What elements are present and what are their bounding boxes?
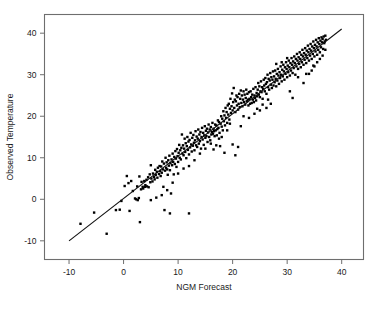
y-axis-title: Observed Temperature	[5, 93, 15, 180]
data-point	[213, 135, 215, 137]
data-point	[224, 124, 226, 126]
data-point	[182, 154, 184, 156]
data-point	[234, 154, 236, 156]
data-point	[257, 88, 259, 90]
x-tick-label: -10	[63, 267, 76, 277]
data-point	[174, 150, 176, 152]
data-point	[273, 75, 275, 77]
data-point	[202, 132, 204, 134]
data-point	[219, 145, 221, 147]
data-point	[206, 127, 208, 129]
data-point	[302, 64, 304, 66]
data-point	[224, 107, 226, 109]
data-point	[294, 74, 296, 76]
data-point	[266, 81, 268, 83]
data-point	[188, 139, 190, 141]
data-point	[259, 96, 261, 98]
data-point	[105, 233, 107, 235]
data-point	[297, 76, 299, 78]
x-axis-title: NGM Forecast	[176, 282, 232, 292]
data-point	[257, 82, 259, 84]
data-point	[163, 162, 165, 164]
data-point	[209, 139, 211, 141]
data-point	[242, 115, 244, 117]
data-point	[277, 68, 279, 70]
data-point	[305, 73, 307, 75]
data-point	[322, 48, 324, 50]
data-point	[251, 102, 253, 104]
data-point	[240, 125, 242, 127]
data-point	[177, 161, 179, 163]
data-point	[119, 208, 121, 210]
data-point	[240, 102, 242, 104]
data-point	[259, 109, 261, 111]
data-point	[185, 142, 187, 144]
data-point	[321, 38, 323, 40]
data-point	[229, 108, 231, 110]
data-point	[140, 188, 142, 190]
data-point	[179, 149, 181, 151]
data-point	[180, 158, 182, 160]
data-point	[231, 109, 233, 111]
data-point	[231, 92, 233, 94]
data-point	[307, 44, 309, 46]
data-point	[286, 57, 288, 59]
data-point	[242, 98, 244, 100]
data-point	[216, 134, 218, 136]
data-point	[180, 147, 182, 149]
data-point	[277, 74, 279, 76]
data-point	[204, 147, 206, 149]
data-point	[182, 144, 184, 146]
data-point	[264, 90, 266, 92]
data-point	[208, 136, 210, 138]
data-point	[140, 181, 142, 183]
data-point	[321, 54, 323, 56]
data-point	[269, 79, 271, 81]
data-point	[285, 61, 287, 63]
data-point	[288, 66, 290, 68]
data-point	[240, 89, 242, 91]
y-tick-label: 20	[27, 111, 37, 121]
data-point	[229, 123, 231, 125]
data-point	[267, 98, 269, 100]
data-point	[233, 107, 235, 109]
data-point	[215, 144, 217, 146]
data-point	[261, 103, 263, 105]
data-point	[191, 150, 193, 152]
data-point	[308, 73, 310, 75]
data-point	[158, 173, 160, 175]
data-point	[139, 221, 141, 223]
data-point	[212, 148, 214, 150]
data-point	[201, 138, 203, 140]
data-point	[161, 194, 163, 196]
data-point	[270, 76, 272, 78]
data-point	[301, 61, 303, 63]
data-point	[283, 70, 285, 72]
data-point	[226, 122, 228, 124]
y-tick-label: 0	[32, 194, 37, 204]
data-point	[193, 159, 195, 161]
data-point	[281, 61, 283, 63]
data-point	[271, 87, 273, 89]
data-point	[272, 84, 274, 86]
data-point	[171, 152, 173, 154]
data-point	[211, 122, 213, 124]
data-point	[316, 54, 318, 56]
data-point	[126, 175, 128, 177]
data-point	[212, 132, 214, 134]
data-point	[168, 164, 170, 166]
y-tick-label: 10	[27, 153, 37, 163]
data-point	[166, 189, 168, 191]
data-point	[228, 118, 230, 120]
data-point	[206, 141, 208, 143]
data-point	[164, 157, 166, 159]
data-point	[153, 178, 155, 180]
data-point	[137, 199, 139, 201]
data-point	[167, 174, 169, 176]
x-tick-label: 0	[121, 267, 126, 277]
data-point	[199, 131, 201, 133]
data-point	[305, 54, 307, 56]
data-point	[299, 51, 301, 53]
data-point	[236, 96, 238, 98]
data-point	[221, 118, 223, 120]
